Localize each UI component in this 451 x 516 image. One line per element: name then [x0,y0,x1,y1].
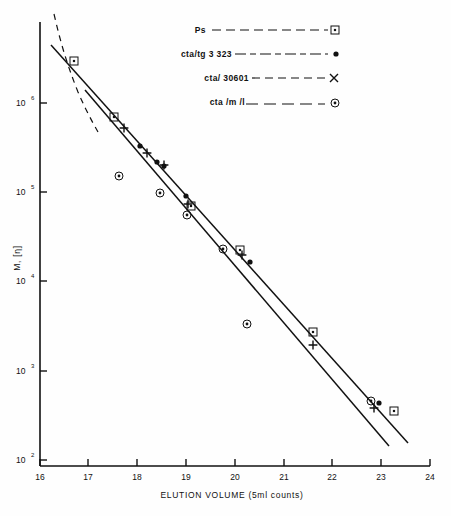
y-tick-exponent: 6 [31,95,35,101]
x-tick-label: 23 [376,472,386,482]
y-tick-exponent: 4 [31,273,35,279]
x-tick-label: 19 [181,472,191,482]
x-tick-label: 20 [230,472,240,482]
y-tick-label: 10 [16,98,26,108]
legend-label-cta-tg3323: cta/tg 3 323 [181,49,232,59]
filled-dot-icon [333,51,338,56]
svg-text:M, [η]: M, [η] [12,245,22,270]
x-tick-label: 24 [425,472,435,482]
y-axis-title-bracket: [η] [12,245,22,257]
x-axis-ticks [40,459,430,466]
series-ps-points [70,57,398,415]
x-tick-label: 21 [279,472,289,482]
circled-dot-icon [331,99,339,107]
legend-label-ps: Ps [195,25,206,35]
chart-canvas: 10 6 10 5 10 4 10 3 10 2 M, [η] [0,0,451,516]
x-tick-label: 16 [35,472,45,482]
y-tick-label: 10 [16,187,26,197]
lower-calibration-line [85,90,389,446]
series-cta-30601-points [120,124,379,413]
x-tick-label: 17 [83,472,93,482]
legend: Ps cta/tg 3 323 cta/ 30601 cta /m /l [181,25,339,107]
y-axis-title: M, [η] [12,245,22,270]
cross-x-icon [330,74,338,82]
y-tick-labels: 10 6 10 5 10 4 10 3 10 2 [16,95,35,465]
legend-item-ps[interactable]: Ps [195,25,339,35]
figure-root: 10 6 10 5 10 4 10 3 10 2 M, [η] [0,0,451,516]
x-tick-label: 22 [327,472,337,482]
open-square-dot-icon [331,26,339,34]
y-tick-label: 10 [16,366,26,376]
y-tick-exponent: 3 [31,363,35,369]
x-tick-labels: 16 17 18 19 20 21 22 23 24 [35,472,435,482]
y-tick-exponent: 2 [31,452,35,458]
legend-item-cta-30601[interactable]: cta/ 30601 [204,73,338,83]
series-cta-m-l-points [115,172,375,405]
y-axis-ticks [40,103,47,460]
legend-item-cta-m-l[interactable]: cta /m /l [210,97,339,107]
axis-lines [40,22,430,466]
x-axis-title: ELUTION VOLUME (5ml counts) [160,490,303,500]
legend-label-cta-m-l: cta /m /l [210,97,245,107]
y-tick-label: 10 [16,455,26,465]
y-tick-label: 10 [16,276,26,286]
y-axis-title-main: M, [12,260,22,271]
y-tick-exponent: 5 [31,184,35,190]
legend-label-cta-30601: cta/ 30601 [204,73,249,83]
x-tick-label: 18 [132,472,142,482]
legend-item-cta-tg3323[interactable]: cta/tg 3 323 [181,49,339,59]
